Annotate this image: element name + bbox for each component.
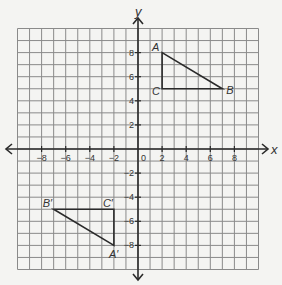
vertex-label: C′ [103, 197, 114, 209]
coordinate-plane-figure: −8−6−4−224688642−2−4−6−8 ABCA′B′C′ x y 0 [0, 0, 282, 285]
y-tick-label: 4 [129, 96, 134, 106]
x-tick-label: 8 [232, 153, 237, 163]
y-tick-label: 2 [129, 120, 134, 130]
x-tick-label: −4 [85, 153, 95, 163]
axes [6, 18, 268, 280]
y-tick-label: −2 [124, 168, 134, 178]
triangle-a-prime-b-prime-c-prime [54, 209, 114, 245]
x-tick-label: −6 [61, 153, 71, 163]
y-tick-label: −6 [124, 216, 134, 226]
origin-label: 0 [141, 153, 146, 163]
x-tick-label: 6 [208, 153, 213, 163]
x-axis-label: x [270, 142, 278, 157]
y-tick-label: 8 [129, 48, 134, 58]
y-tick-label: 6 [129, 72, 134, 82]
triangle-abc [162, 53, 222, 89]
vertex-label: B′ [43, 197, 53, 209]
x-tick-label: 2 [160, 153, 165, 163]
vertex-label: C [152, 85, 160, 97]
vertex-label: A [151, 41, 159, 53]
x-tick-label: −2 [109, 153, 119, 163]
y-axis-label: y [134, 4, 143, 19]
x-tick-label: −8 [36, 153, 46, 163]
y-tick-label: −8 [124, 240, 134, 250]
vertex-label: A′ [108, 248, 119, 260]
x-tick-label: 4 [184, 153, 189, 163]
vertex-label: B [226, 84, 233, 96]
y-tick-label: −4 [124, 192, 134, 202]
coordinate-plane: −8−6−4−224688642−2−4−6−8 ABCA′B′C′ x y 0 [0, 0, 282, 285]
